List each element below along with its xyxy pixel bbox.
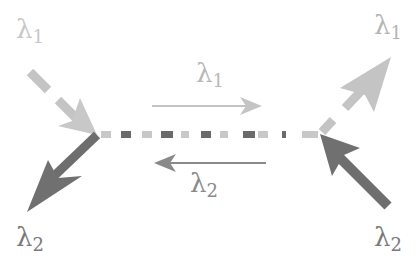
- label-lambda1-top-right: λ1: [374, 12, 402, 42]
- lambda-symbol: λ: [16, 222, 32, 252]
- incoming-lambda2-arrow-right: [320, 134, 388, 206]
- label-lambda2-bottom-right: λ2: [374, 224, 402, 254]
- lambda-subscript: 2: [32, 234, 43, 255]
- incoming-lambda1-arrow-left: [30, 72, 97, 135]
- outgoing-lambda2-arrow-left: [27, 135, 97, 212]
- lambda-symbol: λ: [196, 58, 212, 88]
- outgoing-lambda1-arrow-right: [322, 57, 391, 132]
- label-lambda2-bottom-left: λ2: [16, 224, 44, 254]
- lambda-subscript: 2: [206, 180, 217, 201]
- lambda-symbol: λ: [374, 222, 390, 252]
- lambda-symbol: λ: [374, 10, 390, 40]
- lambda-symbol: λ: [190, 168, 206, 198]
- label-lambda2-middle: λ2: [190, 170, 218, 200]
- lambda-subscript: 1: [32, 26, 43, 47]
- lambda-symbol: λ: [16, 14, 32, 44]
- dashed-fiber-line: [101, 131, 318, 138]
- diagram-canvas: [0, 0, 420, 269]
- forward-lambda1-arrow: [152, 97, 262, 115]
- lambda-subscript: 2: [390, 234, 401, 255]
- label-lambda1-middle: λ1: [196, 60, 224, 90]
- lambda-subscript: 1: [390, 22, 401, 43]
- lambda-subscript: 1: [212, 70, 223, 91]
- label-lambda1-top-left: λ1: [16, 16, 44, 46]
